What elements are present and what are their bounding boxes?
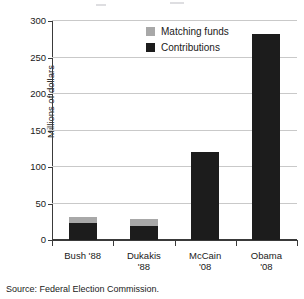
y-axis-tick-label: 200 xyxy=(0,89,46,99)
x-axis-tick-mark xyxy=(113,241,114,246)
bar-segment-contributions xyxy=(191,152,219,240)
gridline xyxy=(52,20,297,21)
x-axis-label: Obama'08 xyxy=(226,250,304,272)
bar-stack xyxy=(252,34,280,240)
bar-segment-contributions xyxy=(252,34,280,240)
x-axis-tick-mark xyxy=(236,241,237,246)
bar-segment-matching-funds xyxy=(130,219,158,226)
legend-label-matching-funds: Matching funds xyxy=(161,26,229,37)
x-axis-tick-mark xyxy=(297,241,298,246)
legend-swatch-contributions-icon xyxy=(146,43,155,52)
legend-item-contributions: Contributions xyxy=(146,40,229,54)
chart-legend: Matching funds Contributions xyxy=(146,24,229,56)
legend-item-matching-funds: Matching funds xyxy=(146,24,229,38)
y-axis-tick-label: 300 xyxy=(0,16,46,26)
scan-artifact xyxy=(170,2,184,4)
source-note: Source: Federal Election Commission. xyxy=(6,284,159,294)
y-axis-tick-label: 100 xyxy=(0,162,46,172)
y-axis-tick-label: 150 xyxy=(0,126,46,136)
bar-stack xyxy=(191,152,219,240)
x-axis-label-line: '08 xyxy=(226,261,304,272)
legend-label-contributions: Contributions xyxy=(161,42,220,53)
y-axis-tick-label: 0 xyxy=(0,235,46,245)
bar-stack xyxy=(69,217,97,240)
x-axis-tick-mark xyxy=(52,241,53,246)
y-axis-tick-label: 50 xyxy=(0,199,46,209)
legend-swatch-matching-funds-icon xyxy=(146,27,155,36)
y-axis-tick-label: 250 xyxy=(0,53,46,63)
chart-figure: Millions of dollars 050100150200250300 B… xyxy=(0,0,304,299)
scan-artifact xyxy=(96,4,106,6)
bar-segment-contributions xyxy=(130,226,158,240)
x-axis-label-line: Obama xyxy=(226,250,304,261)
x-axis-tick-mark xyxy=(175,241,176,246)
bar-stack xyxy=(130,219,158,240)
bar-segment-contributions xyxy=(69,223,97,240)
